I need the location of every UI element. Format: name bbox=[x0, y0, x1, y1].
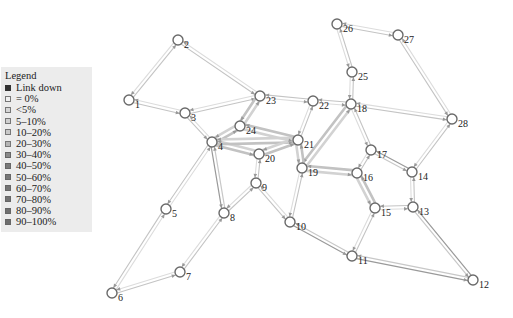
node-circle-icon bbox=[254, 149, 264, 159]
node-label: 27 bbox=[404, 34, 414, 45]
node-label: 8 bbox=[230, 212, 235, 223]
legend-item: 50–60% bbox=[5, 172, 92, 183]
node-label: 12 bbox=[479, 279, 489, 290]
node-circle-icon bbox=[173, 35, 183, 45]
node-label: 18 bbox=[357, 103, 367, 114]
node-label: 19 bbox=[308, 167, 318, 178]
legend-swatch-icon bbox=[5, 185, 11, 191]
link-12-13 bbox=[415, 210, 471, 277]
link-13-14 bbox=[409, 177, 415, 202]
arrowhead-icon bbox=[346, 63, 349, 67]
node-9: 9 bbox=[251, 178, 267, 193]
link-11-15 bbox=[353, 212, 375, 252]
legend-item: 20–30% bbox=[5, 138, 92, 149]
arrowhead-icon bbox=[389, 33, 393, 37]
node-circle-icon bbox=[352, 168, 362, 178]
legend-item: 40–50% bbox=[5, 160, 92, 171]
node-label: 14 bbox=[418, 171, 428, 182]
legend-item-label: = 0% bbox=[16, 93, 39, 104]
link-5-6 bbox=[113, 212, 164, 289]
link-18-19 bbox=[303, 107, 350, 166]
legend-item: = 0% bbox=[5, 93, 92, 104]
node-6: 6 bbox=[107, 288, 123, 303]
node-label: 7 bbox=[186, 271, 191, 282]
node-label: 5 bbox=[172, 208, 177, 219]
legend-item-label: 80–90% bbox=[16, 205, 51, 216]
link-1-2 bbox=[131, 43, 176, 97]
link-10-19 bbox=[289, 173, 304, 218]
node-circle-icon bbox=[468, 275, 478, 285]
node-circle-icon bbox=[347, 67, 357, 77]
node-label: 23 bbox=[266, 95, 276, 106]
node-label: 3 bbox=[191, 112, 196, 123]
node-label: 22 bbox=[319, 100, 329, 111]
legend-swatch-icon bbox=[5, 196, 11, 202]
node-label: 2 bbox=[184, 39, 189, 50]
legend-swatch-icon bbox=[5, 107, 11, 113]
link-19-21 bbox=[296, 145, 303, 164]
node-label: 21 bbox=[304, 139, 314, 150]
link-11-12 bbox=[357, 254, 469, 281]
graph-edges bbox=[113, 22, 471, 293]
link-18-28 bbox=[356, 102, 448, 121]
legend-item-label: 20–30% bbox=[16, 138, 51, 149]
legend-item-label: 30–40% bbox=[16, 149, 51, 160]
node-circle-icon bbox=[180, 108, 190, 118]
node-label: 28 bbox=[458, 118, 468, 129]
node-circle-icon bbox=[346, 99, 356, 109]
node-circle-icon bbox=[297, 163, 307, 173]
node-16: 16 bbox=[352, 168, 373, 183]
arrowhead-icon bbox=[298, 130, 301, 134]
node-circle-icon bbox=[332, 19, 342, 29]
node-circle-icon bbox=[408, 202, 418, 212]
link-4-5 bbox=[168, 145, 211, 206]
node-label: 26 bbox=[343, 23, 353, 34]
legend-item: 80–90% bbox=[5, 205, 92, 216]
link-4-8 bbox=[211, 147, 224, 209]
node-circle-icon bbox=[366, 145, 376, 155]
node-1: 1 bbox=[124, 95, 140, 110]
legend-item-label: 5–10% bbox=[16, 116, 46, 127]
legend-swatch-icon bbox=[5, 118, 11, 124]
node-circle-icon bbox=[370, 203, 380, 213]
node-label: 16 bbox=[363, 172, 373, 183]
node-circle-icon bbox=[347, 251, 357, 261]
arrowhead-icon bbox=[310, 106, 313, 110]
link-1-3 bbox=[134, 99, 181, 115]
legend: Legend Link down= 0%<5%5–10%10–20%20–30%… bbox=[1, 67, 92, 232]
legend-item: 5–10% bbox=[5, 116, 92, 127]
legend-item-label: 10–20% bbox=[16, 127, 51, 138]
node-circle-icon bbox=[235, 121, 245, 131]
node-circle-icon bbox=[207, 137, 217, 147]
node-13: 13 bbox=[408, 202, 429, 217]
node-10: 10 bbox=[285, 217, 306, 232]
node-label: 25 bbox=[358, 71, 368, 82]
node-label: 4 bbox=[218, 141, 223, 152]
legend-item: 30–40% bbox=[5, 149, 92, 160]
legend-swatch-icon bbox=[5, 219, 11, 225]
node-circle-icon bbox=[293, 135, 303, 145]
node-label: 20 bbox=[265, 153, 275, 164]
node-label: 24 bbox=[246, 125, 256, 136]
legend-swatch-icon bbox=[5, 85, 11, 91]
node-circle-icon bbox=[161, 204, 171, 214]
link-14-28 bbox=[414, 122, 451, 169]
node-26: 26 bbox=[332, 19, 353, 34]
legend-item-label: 60–70% bbox=[16, 183, 51, 194]
node-circle-icon bbox=[285, 217, 295, 227]
node-27: 27 bbox=[393, 30, 414, 45]
legend-title: Legend bbox=[5, 69, 92, 82]
legend-swatch-icon bbox=[5, 152, 11, 158]
node-circle-icon bbox=[255, 91, 265, 101]
legend-item-label: 90–100% bbox=[16, 216, 56, 227]
node-circle-icon bbox=[107, 288, 117, 298]
legend-item-label: <5% bbox=[16, 104, 36, 115]
node-label: 6 bbox=[118, 292, 123, 303]
legend-item: <5% bbox=[5, 104, 92, 115]
arrowhead-icon bbox=[171, 274, 175, 277]
node-label: 15 bbox=[381, 207, 391, 218]
link-23-24 bbox=[241, 99, 259, 123]
link-16-17 bbox=[358, 153, 370, 169]
legend-items: Link down= 0%<5%5–10%10–20%20–30%30–40%4… bbox=[5, 82, 92, 227]
legend-swatch-icon bbox=[5, 174, 11, 180]
